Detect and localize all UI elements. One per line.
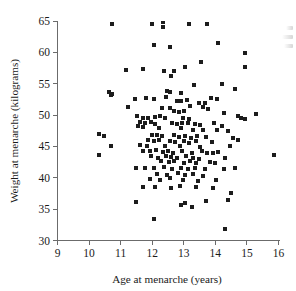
data-point bbox=[155, 133, 159, 137]
data-point bbox=[189, 136, 193, 140]
data-point bbox=[143, 121, 147, 125]
data-point bbox=[149, 120, 153, 124]
data-point bbox=[191, 172, 195, 176]
data-point bbox=[169, 155, 173, 159]
x-tick-label: 14 bbox=[210, 247, 222, 259]
data-point bbox=[198, 123, 202, 127]
data-point bbox=[162, 69, 166, 73]
data-point bbox=[233, 87, 237, 91]
data-point bbox=[134, 166, 138, 170]
data-point bbox=[201, 105, 205, 109]
data-point bbox=[194, 161, 198, 165]
data-point bbox=[158, 114, 162, 118]
data-point bbox=[150, 22, 154, 26]
data-point bbox=[192, 83, 196, 87]
data-point bbox=[126, 105, 130, 109]
x-tick-label: 15 bbox=[241, 247, 253, 259]
data-point bbox=[146, 116, 150, 120]
data-point bbox=[203, 101, 207, 105]
data-point bbox=[194, 185, 198, 189]
data-point bbox=[229, 191, 233, 195]
data-point bbox=[195, 134, 199, 138]
data-point bbox=[149, 154, 153, 158]
data-point bbox=[169, 186, 173, 190]
x-tick-label: 13 bbox=[178, 247, 190, 259]
data-point bbox=[216, 150, 220, 154]
data-point bbox=[239, 116, 243, 120]
data-point bbox=[201, 128, 205, 132]
data-point bbox=[231, 136, 235, 140]
data-point bbox=[179, 203, 183, 207]
data-point bbox=[236, 138, 240, 142]
data-point bbox=[201, 174, 205, 178]
data-point bbox=[243, 117, 247, 121]
data-point bbox=[243, 51, 247, 55]
data-point bbox=[177, 110, 181, 114]
data-point bbox=[156, 156, 160, 160]
data-point bbox=[152, 139, 156, 143]
data-point bbox=[179, 91, 183, 95]
data-point bbox=[191, 156, 195, 160]
data-point bbox=[187, 22, 191, 26]
data-point bbox=[183, 173, 187, 177]
data-point bbox=[204, 199, 208, 203]
data-point bbox=[220, 82, 224, 86]
data-point bbox=[168, 139, 172, 143]
x-tick-label: 16 bbox=[273, 247, 285, 259]
data-point bbox=[213, 161, 217, 165]
data-point bbox=[272, 153, 276, 157]
data-point bbox=[226, 198, 230, 202]
data-point bbox=[186, 121, 190, 125]
data-point bbox=[215, 128, 219, 132]
data-point bbox=[161, 150, 165, 154]
data-point bbox=[163, 116, 167, 120]
data-point bbox=[157, 126, 161, 130]
y-tick-label: 45 bbox=[39, 140, 51, 152]
data-point bbox=[191, 128, 195, 132]
data-point bbox=[144, 96, 148, 100]
data-point bbox=[160, 134, 164, 138]
y-tick-label: 35 bbox=[39, 203, 51, 215]
data-point bbox=[205, 22, 209, 26]
data-point bbox=[133, 97, 137, 101]
data-point bbox=[193, 122, 197, 126]
scatter-plot-figure: 910111213141516 3035404550556065 Age at … bbox=[0, 0, 296, 291]
data-point bbox=[166, 149, 170, 153]
x-tick-label: 12 bbox=[146, 247, 158, 259]
data-point bbox=[212, 121, 216, 125]
data-point bbox=[164, 95, 168, 99]
data-point bbox=[176, 171, 180, 175]
data-point bbox=[141, 185, 145, 189]
data-point bbox=[223, 156, 227, 160]
data-point bbox=[163, 144, 167, 148]
data-point bbox=[200, 149, 204, 153]
data-point bbox=[172, 133, 176, 137]
data-point bbox=[179, 126, 183, 130]
data-point bbox=[152, 97, 156, 101]
data-point bbox=[161, 21, 165, 24]
data-point bbox=[173, 140, 177, 144]
data-point bbox=[196, 179, 200, 183]
data-point bbox=[177, 135, 181, 139]
x-tick-label: 9 bbox=[55, 247, 61, 259]
data-point bbox=[178, 184, 182, 188]
data-point bbox=[181, 178, 185, 182]
data-point bbox=[152, 217, 156, 221]
data-point bbox=[110, 22, 114, 26]
data-point bbox=[187, 117, 191, 121]
data-point bbox=[109, 93, 113, 97]
data-point bbox=[143, 166, 147, 170]
data-point bbox=[162, 165, 166, 169]
data-point bbox=[136, 124, 140, 128]
data-point bbox=[170, 167, 174, 171]
data-point bbox=[183, 65, 187, 69]
data-point bbox=[148, 177, 152, 181]
data-point bbox=[190, 151, 194, 155]
data-point bbox=[180, 149, 184, 153]
data-point bbox=[172, 69, 176, 73]
data-point bbox=[198, 145, 202, 149]
data-point bbox=[145, 144, 149, 148]
data-point bbox=[109, 144, 113, 148]
data-point bbox=[138, 120, 142, 124]
data-point bbox=[172, 159, 176, 163]
